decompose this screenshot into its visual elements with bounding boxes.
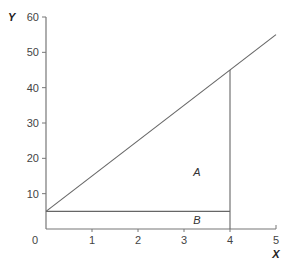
annotations: AB [192, 166, 200, 226]
x-axis: 012345X [32, 225, 280, 260]
x-tick-label: 1 [89, 234, 95, 246]
x-tick-label: 4 [227, 234, 233, 246]
y-tick-label: 50 [27, 46, 39, 58]
region-label-a: A [192, 166, 200, 178]
y-tick-label: 40 [27, 82, 39, 94]
y-axis-title: Y [8, 11, 17, 23]
x-tick-label: 5 [273, 234, 279, 246]
line [46, 35, 276, 212]
x-tick-label: 0 [32, 234, 38, 246]
x-tick-label: 2 [135, 234, 141, 246]
x-tick-label: 3 [181, 234, 187, 246]
region-label-b: B [193, 214, 200, 226]
y-tick-label: 20 [27, 152, 39, 164]
chart: 102030405060Y 012345X AB [0, 0, 292, 269]
y-tick-label: 30 [27, 117, 39, 129]
y-axis: 102030405060Y [8, 11, 46, 229]
series-lines [46, 35, 276, 229]
y-tick-label: 10 [27, 188, 39, 200]
x-axis-title: X [271, 248, 280, 260]
y-tick-label: 60 [27, 11, 39, 23]
